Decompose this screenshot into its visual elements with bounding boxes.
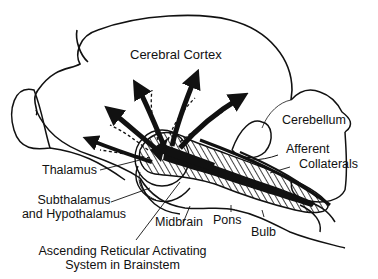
label-aras-line2: System in Brainstem [20, 258, 225, 272]
label-aras-line1: Ascending Reticular Activating [20, 244, 225, 258]
label-cerebellum: Cerebellum [282, 113, 346, 127]
label-cerebral-cortex: Cerebral Cortex [130, 48, 222, 62]
label-pons: Pons [213, 213, 242, 227]
label-thalamus: Thalamus [42, 163, 97, 177]
label-afferent: Afferent [286, 142, 330, 156]
label-subthalamus: Subthalamus [18, 193, 130, 207]
label-midbrain: Midbrain [155, 215, 203, 229]
brain-diagram [0, 0, 378, 279]
label-bulb: Bulb [251, 225, 276, 239]
cerebrum-outline [35, 15, 292, 115]
label-hypothalamus: and Hypothalamus [18, 207, 130, 221]
label-collaterals: Collaterals [299, 157, 358, 171]
